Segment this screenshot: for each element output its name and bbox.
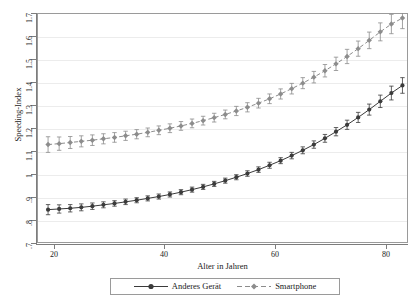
x-tick-label: 20 — [39, 250, 69, 259]
data-point-marker — [333, 61, 338, 66]
data-point-marker — [190, 188, 194, 192]
legend-label-anderes-geraet: Anderes Gerät — [172, 282, 221, 291]
chart-root: .7.8.911.11.21.31.41.51.61.7 20406080 Sp… — [0, 0, 415, 301]
data-point-marker — [367, 108, 371, 112]
data-point-marker — [267, 163, 271, 167]
data-point-marker — [245, 171, 249, 175]
y-tick-label: 1.1 — [26, 151, 34, 177]
data-point-marker — [167, 126, 172, 131]
data-point-marker — [300, 80, 305, 85]
x-tick-mark — [275, 245, 276, 249]
data-point-marker — [123, 200, 127, 204]
y-tick-label: 1.7 — [26, 13, 34, 39]
x-tick-mark — [54, 245, 55, 249]
data-point-marker — [90, 137, 95, 142]
data-point-marker — [323, 136, 327, 140]
data-point-marker — [301, 148, 305, 152]
data-point-marker — [279, 159, 283, 163]
y-tick-label: 1.5 — [26, 59, 34, 85]
y-tick-label: 1.2 — [26, 128, 34, 154]
y-tick-label: 1 — [26, 174, 34, 200]
data-point-marker — [146, 196, 150, 200]
y-tick-label: .9 — [26, 197, 34, 223]
data-point-marker — [311, 74, 316, 79]
legend-swatch-dashed-diamond — [237, 281, 271, 292]
data-point-marker — [46, 208, 50, 212]
data-point-marker — [290, 154, 294, 158]
data-point-marker — [400, 83, 404, 87]
data-point-marker — [289, 86, 294, 91]
data-point-marker — [223, 112, 228, 117]
data-point-marker — [135, 198, 139, 202]
data-point-marker — [168, 192, 172, 196]
data-point-marker — [178, 123, 183, 128]
data-point-marker — [200, 118, 205, 123]
y-tick-label: .8 — [26, 220, 34, 246]
x-tick-mark — [164, 245, 165, 249]
data-point-marker — [356, 115, 360, 119]
chart-data-layer — [37, 13, 408, 243]
series-smartphone — [45, 13, 405, 152]
data-point-marker — [212, 182, 216, 186]
y-tick-label: 1.3 — [26, 105, 34, 131]
data-point-marker — [256, 100, 261, 105]
data-point-marker — [101, 203, 105, 207]
data-point-marker — [267, 96, 272, 101]
data-point-marker — [278, 91, 283, 96]
legend-swatch-solid-circle — [134, 281, 168, 292]
chart-legend: Anderes Gerät Smartphone — [110, 278, 340, 295]
x-tick-label: 60 — [260, 250, 290, 259]
series-anderes-geraet — [46, 78, 405, 215]
data-point-marker — [57, 207, 61, 211]
data-point-marker — [312, 142, 316, 146]
data-point-marker — [68, 140, 73, 145]
data-point-marker — [378, 99, 382, 103]
data-point-marker — [145, 130, 150, 135]
x-tick-label: 80 — [371, 250, 401, 259]
data-point-marker — [56, 141, 61, 146]
x-axis-title: Alter in Jahren — [37, 261, 408, 271]
y-axis-line — [36, 13, 37, 244]
series-line — [48, 85, 402, 209]
data-point-marker — [334, 130, 338, 134]
data-point-marker — [322, 68, 327, 73]
data-point-marker — [179, 190, 183, 194]
data-point-marker — [45, 142, 50, 147]
data-point-marker — [211, 115, 216, 120]
data-point-marker — [234, 108, 239, 113]
data-point-marker — [189, 121, 194, 126]
data-point-marker — [101, 136, 106, 141]
data-point-marker — [344, 54, 349, 59]
data-point-marker — [245, 105, 250, 110]
x-tick-label: 40 — [149, 250, 179, 259]
data-point-marker — [345, 123, 349, 127]
data-point-marker — [79, 205, 83, 209]
data-point-marker — [68, 206, 72, 210]
data-point-marker — [400, 15, 405, 20]
data-point-marker — [156, 128, 161, 133]
series-line — [48, 18, 402, 145]
data-point-marker — [79, 139, 84, 144]
data-point-marker — [234, 175, 238, 179]
data-point-marker — [112, 201, 116, 205]
data-point-marker — [90, 204, 94, 208]
data-point-marker — [201, 185, 205, 189]
y-tick-label: .7 — [26, 243, 34, 269]
data-point-marker — [389, 91, 393, 95]
data-point-marker — [256, 168, 260, 172]
data-point-marker — [123, 133, 128, 138]
data-point-marker — [223, 179, 227, 183]
legend-item-smartphone: Smartphone — [237, 281, 316, 292]
data-point-marker — [112, 135, 117, 140]
legend-label-smartphone: Smartphone — [275, 282, 316, 291]
y-tick-label: 1.4 — [26, 82, 34, 108]
data-point-marker — [134, 132, 139, 137]
y-tick-label-wrap: 1.7 — [4, 9, 30, 17]
y-tick-label: 1.6 — [26, 36, 34, 62]
data-point-marker — [157, 194, 161, 198]
x-tick-mark — [386, 245, 387, 249]
x-axis-line — [36, 244, 408, 245]
legend-item-anderes-geraet: Anderes Gerät — [134, 281, 221, 292]
y-axis-title: Speeding-Index — [14, 55, 23, 175]
